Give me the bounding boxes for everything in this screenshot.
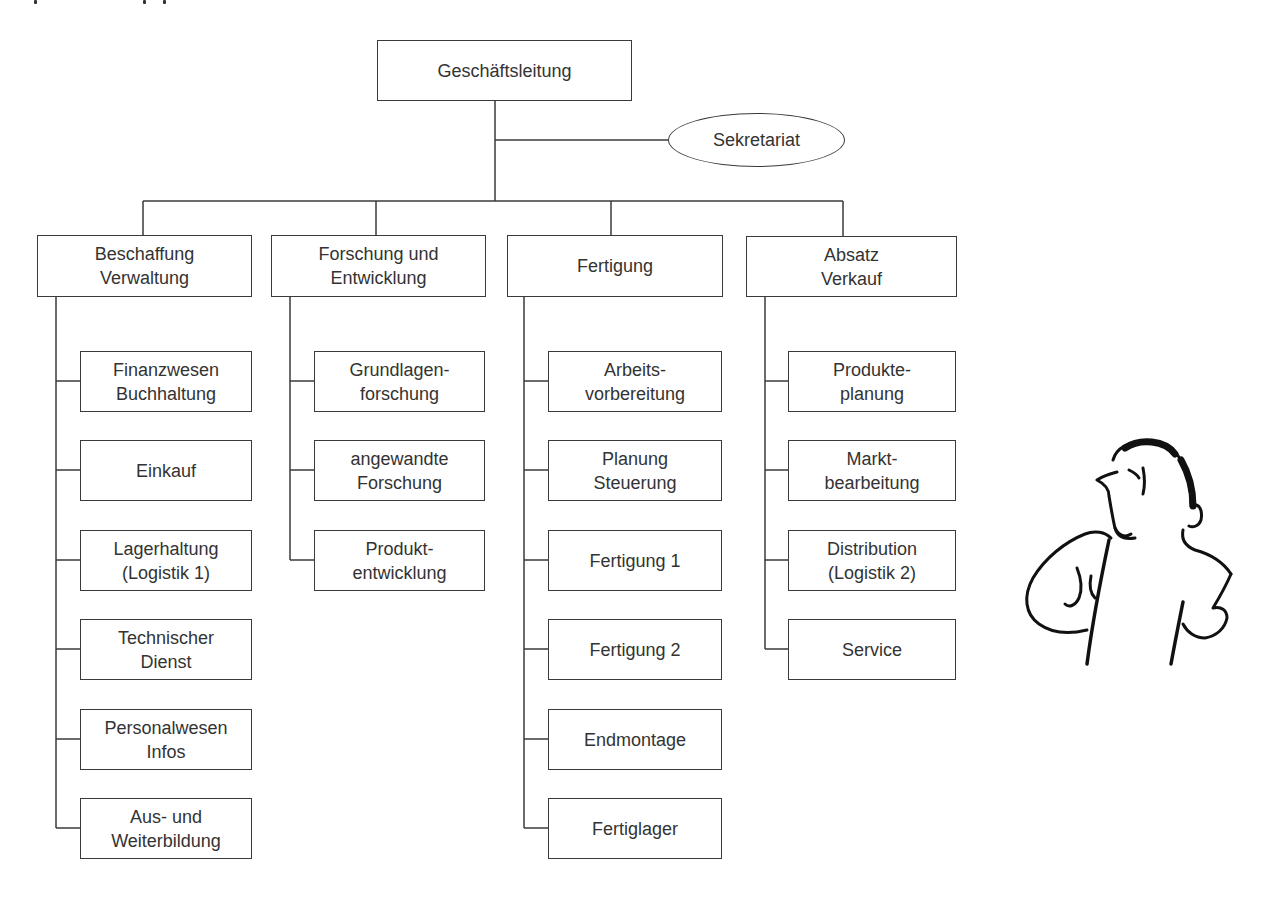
node-label-line: Verwaltung [100, 266, 189, 290]
node-label-line: Dienst [140, 650, 191, 674]
node-label-line: Infos [146, 740, 185, 764]
node-department-beschaffung: Beschaffung Verwaltung [37, 235, 252, 297]
thinking-man-illustration-icon [1005, 428, 1255, 668]
node-unit: Produkt- entwicklung [314, 530, 485, 591]
node-label-line: Verkauf [821, 267, 882, 291]
node-root: Geschäftsleitung [377, 40, 632, 101]
node-unit: Technischer Dienst [80, 619, 252, 680]
node-label-line: angewandte [350, 447, 448, 471]
node-unit: angewandte Forschung [314, 440, 485, 501]
node-label-line: Grundlagen- [349, 358, 449, 382]
node-label-line: planung [840, 382, 904, 406]
node-label-line: Produkt- [365, 537, 433, 561]
node-label-line: Weiterbildung [111, 829, 221, 853]
node-unit: Fertigung 2 [548, 619, 722, 680]
node-label-line: Produkte- [833, 358, 911, 382]
node-unit: Finanzwesen Buchhaltung [80, 351, 252, 412]
node-label: Sekretariat [713, 130, 800, 151]
node-unit: Lagerhaltung (Logistik 1) [80, 530, 252, 591]
node-label-line: Forschung und [318, 242, 438, 266]
node-unit: Einkauf [80, 440, 252, 501]
node-department-absatz: Absatz Verkauf [746, 236, 957, 297]
node-label-line: Fertigung 1 [589, 549, 680, 573]
node-department-forschung: Forschung und Entwicklung [271, 235, 486, 297]
node-label-line: Personalwesen [104, 716, 227, 740]
node-unit: Produkte- planung [788, 351, 956, 412]
node-label-line: Fertigung 2 [589, 638, 680, 662]
node-label-line: entwicklung [352, 561, 446, 585]
node-unit: Aus- und Weiterbildung [80, 798, 252, 859]
org-chart-canvas: Geschäftsleitung Sekretariat Beschaffung… [0, 0, 1271, 897]
node-label-line: Markt- [847, 447, 898, 471]
node-unit: Endmontage [548, 709, 722, 770]
node-label-line: Lagerhaltung [113, 537, 218, 561]
node-label-line: Aus- und [130, 805, 202, 829]
node-label-line: Steuerung [593, 471, 676, 495]
node-label-line: Planung [602, 447, 668, 471]
node-department-fertigung: Fertigung [507, 235, 723, 297]
node-label-line: Arbeits- [604, 358, 666, 382]
node-unit: Fertigung 1 [548, 530, 722, 591]
node-label-line: bearbeitung [824, 471, 919, 495]
node-label-line: vorbereitung [585, 382, 685, 406]
node-label-line: (Logistik 1) [122, 561, 210, 585]
node-unit: Personalwesen Infos [80, 709, 252, 770]
node-label-line: Forschung [357, 471, 442, 495]
node-unit: Markt- bearbeitung [788, 440, 956, 501]
node-label-line: Absatz [824, 243, 879, 267]
node-label-line: Fertigung [577, 254, 653, 278]
node-unit: Service [788, 619, 956, 680]
node-unit: Arbeits- vorbereitung [548, 351, 722, 412]
node-label-line: Buchhaltung [116, 382, 216, 406]
node-label-line: Service [842, 638, 902, 662]
node-staff-sekretariat: Sekretariat [668, 113, 845, 167]
node-unit: Planung Steuerung [548, 440, 722, 501]
node-label-line: Technischer [118, 626, 214, 650]
node-label-line: Beschaffung [95, 242, 195, 266]
node-label: Geschäftsleitung [437, 59, 571, 83]
node-label-line: Fertiglager [592, 817, 678, 841]
node-unit: Grundlagen- forschung [314, 351, 485, 412]
node-label-line: Entwicklung [330, 266, 426, 290]
node-unit: Distribution (Logistik 2) [788, 530, 956, 591]
node-label-line: (Logistik 2) [828, 561, 916, 585]
node-label-line: forschung [360, 382, 439, 406]
node-label-line: Distribution [827, 537, 917, 561]
node-label-line: Endmontage [584, 728, 686, 752]
node-label-line: Einkauf [136, 459, 196, 483]
node-unit: Fertiglager [548, 798, 722, 859]
node-label-line: Finanzwesen [113, 358, 219, 382]
